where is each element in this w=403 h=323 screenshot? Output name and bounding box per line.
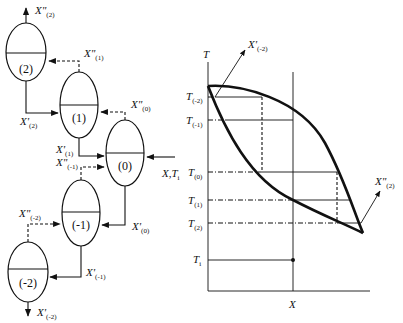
arrow-bottom-label: X"(2) <box>374 175 395 190</box>
stage-cascade: (2) (1) (0) (-1) (-2) <box>6 4 180 321</box>
temp-tick-label: T(1) <box>188 194 203 209</box>
liquid-flow-m1-to-m2 <box>50 246 81 277</box>
liquid-flow-0-to-m1 <box>102 186 125 225</box>
x-axis-label: X <box>288 298 297 310</box>
arrow-top <box>215 50 245 97</box>
stage-2: (2) <box>6 8 46 81</box>
stage-0: (0) <box>106 120 144 186</box>
temp-tick-label: T(0) <box>188 166 203 181</box>
stream-label-vapor-0: X"(0) <box>130 98 151 113</box>
stage-label: (2) <box>19 62 33 76</box>
stage-label: (0) <box>118 159 132 173</box>
cascade-diagram: (2) (1) (0) (-1) (-2) <box>0 0 403 323</box>
stage-m2: (-2) <box>8 242 48 316</box>
arrow-bottom <box>361 191 380 223</box>
stage-label: (-2) <box>19 276 37 290</box>
vapor-flow-m1-to-0 <box>81 167 104 180</box>
y-axis-label: T <box>203 48 210 60</box>
stage-label: (-1) <box>72 218 90 232</box>
vapor-flow-0-to-1 <box>101 112 125 120</box>
stage-m1: (-1) <box>62 180 100 246</box>
bubble-curve <box>208 86 363 233</box>
liquid-flow-2-to-1 <box>26 81 58 113</box>
dew-curve <box>208 86 363 233</box>
stream-label-liquid-0: X'(0) <box>131 220 150 235</box>
liquid-flow-1-to-0 <box>79 138 104 156</box>
stream-label-liquid-m1: X'(-1) <box>85 266 106 281</box>
stream-label-vapor-out-2: X"(2) <box>34 4 55 19</box>
temp-tick-label: T(-1) <box>186 114 203 129</box>
stage-1: (1) <box>60 72 98 138</box>
temp-tick-label: Ti <box>193 253 201 268</box>
temp-tick-label: T(2) <box>188 217 203 232</box>
temp-tick-label: T(-2) <box>186 90 203 105</box>
stream-label-vapor-m1: X"(-1) <box>55 156 79 171</box>
stream-label-vapor-1: X"(1) <box>83 47 104 62</box>
arrow-top-label: X'(-2) <box>247 38 268 53</box>
stream-label-feed: X,Ti <box>161 167 180 182</box>
vapor-flow-1-to-2 <box>49 61 79 72</box>
stream-label-liquid-2: X'(2) <box>19 115 38 130</box>
phase-diagram: T X X'(-2) X"(2) T(-2) T(-1) T(0) <box>186 38 395 310</box>
feed-point <box>291 258 295 262</box>
vapor-flow-m2-to-m1 <box>28 224 60 242</box>
stream-label-vapor-m2: X"(-2) <box>18 207 42 222</box>
stage-label: (1) <box>72 111 86 125</box>
stream-label-liquid-out-m2: X'(-2) <box>36 306 57 321</box>
